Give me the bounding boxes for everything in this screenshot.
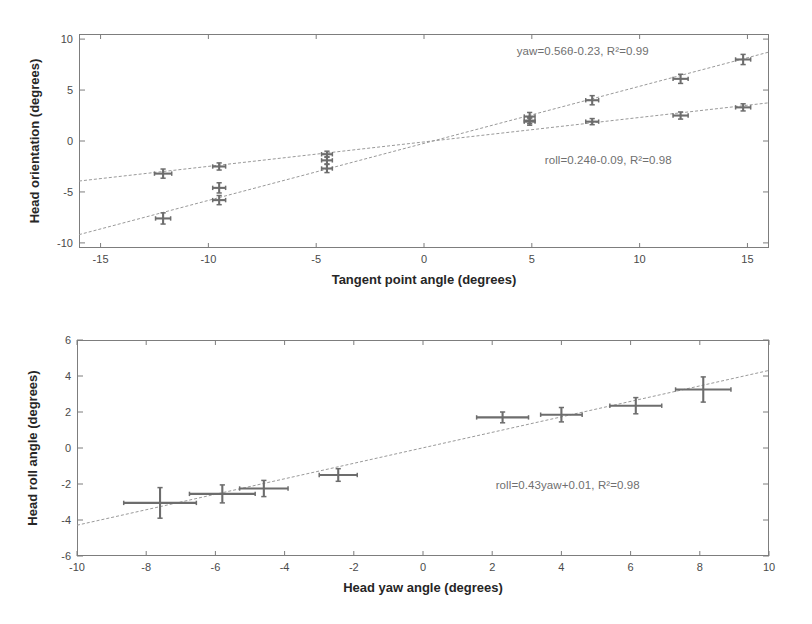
x-tick-label: -15 xyxy=(93,253,109,265)
x-tick-label: 8 xyxy=(697,561,703,573)
top-panel: -15-10-50510151050-5-10 yaw=0.56θ-0.23, … xyxy=(0,0,812,312)
roll-fit-equation: roll=0.24θ-0.09, R²=0.98 xyxy=(545,154,672,166)
y-tick-label: 2 xyxy=(47,406,71,418)
data-point-yaw xyxy=(322,164,333,172)
y-tick-label: 4 xyxy=(47,370,71,382)
x-tick-label: -8 xyxy=(141,561,151,573)
y-tick-label: 10 xyxy=(49,33,73,45)
bottom-panel-plot-canvas xyxy=(0,312,812,624)
data-point-roll-vs-yaw xyxy=(124,488,197,519)
fit-line-roll xyxy=(79,103,769,181)
roll-yaw-fit-equation: roll=0.43yaw+0.01, R²=0.98 xyxy=(496,479,640,491)
bottom-panel-y-axis-title: Head roll angle (degrees) xyxy=(25,370,40,525)
x-tick-label: 10 xyxy=(634,253,646,265)
y-tick-label: 5 xyxy=(49,84,73,96)
top-panel-y-axis-title: Head orientation (degrees) xyxy=(27,59,42,224)
bottom-panel: -10-8-6-4-202468106420-2-4-6 roll=0.43ya… xyxy=(0,312,812,624)
y-tick-label: -6 xyxy=(47,550,71,562)
data-point-roll-vs-yaw xyxy=(319,469,357,482)
data-point-yaw xyxy=(213,196,226,205)
y-tick-label: -4 xyxy=(47,514,71,526)
data-point-yaw xyxy=(673,74,688,83)
data-point-roll xyxy=(736,104,751,111)
x-tick-label: -10 xyxy=(200,253,216,265)
figure-root: -15-10-50510151050-5-10 yaw=0.56θ-0.23, … xyxy=(0,0,812,624)
x-tick-label: -6 xyxy=(211,561,221,573)
x-tick-label: -4 xyxy=(280,561,290,573)
data-point-roll-vs-yaw xyxy=(477,412,529,423)
top-panel-x-axis-title: Tangent point angle (degrees) xyxy=(332,272,517,287)
data-point-roll xyxy=(213,163,226,170)
x-tick-label: 15 xyxy=(741,253,753,265)
data-point-roll xyxy=(322,151,333,157)
data-point-yaw xyxy=(156,213,171,224)
x-tick-label: 6 xyxy=(628,561,634,573)
data-point-roll-vs-yaw xyxy=(610,398,662,414)
y-tick-label: -10 xyxy=(49,237,73,249)
x-tick-label: 2 xyxy=(489,561,495,573)
top-panel-plot-canvas xyxy=(0,0,812,312)
x-tick-label: -10 xyxy=(69,561,85,573)
yaw-fit-equation: yaw=0.56θ-0.23, R²=0.99 xyxy=(517,45,649,57)
data-point-yaw xyxy=(736,54,751,64)
x-tick-label: 4 xyxy=(558,561,564,573)
y-tick-label: 0 xyxy=(47,442,71,454)
y-tick-label: 6 xyxy=(47,334,71,346)
x-tick-label: 5 xyxy=(529,253,535,265)
x-tick-label: 0 xyxy=(420,561,426,573)
x-tick-label: -2 xyxy=(349,561,359,573)
y-tick-label: 0 xyxy=(49,135,73,147)
x-tick-label: 0 xyxy=(421,253,427,265)
x-tick-label: -5 xyxy=(311,253,321,265)
y-tick-label: -5 xyxy=(49,186,73,198)
bottom-panel-x-axis-title: Head yaw angle (degrees) xyxy=(343,580,503,595)
x-tick-label: 10 xyxy=(763,561,775,573)
y-tick-label: -2 xyxy=(47,478,71,490)
fit-line-yaw xyxy=(79,52,769,235)
data-point-roll xyxy=(524,118,535,124)
data-point-yaw xyxy=(586,96,599,105)
data-point-yaw xyxy=(213,183,226,193)
